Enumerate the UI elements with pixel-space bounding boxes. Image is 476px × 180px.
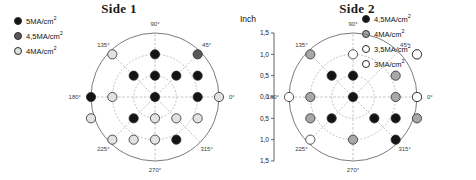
data-point-side-1	[108, 92, 117, 101]
legend-item-label: 4,5MA/cm2	[26, 31, 63, 40]
legend-swatch-icon	[14, 17, 22, 25]
data-point-side-2	[412, 114, 421, 123]
page-title-side-2: Side 2	[238, 1, 476, 17]
data-point-side-1	[86, 114, 95, 123]
data-point-side-2	[348, 50, 357, 59]
data-point-side-1	[172, 135, 181, 144]
data-point-side-1	[172, 71, 181, 80]
angle-tick-label: 90°	[150, 21, 160, 27]
data-point-side-2	[306, 92, 315, 101]
angle-tick-label: 0°	[229, 94, 235, 100]
data-point-side-1	[150, 50, 159, 59]
data-point-side-2	[306, 50, 315, 59]
data-point-side-1	[193, 50, 202, 59]
y-axis-tick-label: 0,5	[260, 72, 269, 79]
data-point-side-1	[108, 50, 117, 59]
legend-swatch-icon	[362, 15, 370, 23]
legend-item-label: 4,5MA/cm2	[374, 14, 411, 23]
data-point-side-1	[150, 71, 159, 80]
angle-tick-label: 270°	[347, 167, 360, 173]
legend-item: 4MA/cm2	[14, 44, 63, 57]
figure-container: Side 1 5MA/cm2 4,5MA/cm2 4MA/cm2 0°45°90…	[0, 0, 476, 180]
data-point-side-2	[412, 92, 421, 101]
legend-swatch-icon	[14, 47, 22, 55]
legend-item: 4,5MA/cm2	[362, 12, 411, 25]
angle-tick-label: 225°	[97, 146, 110, 152]
angle-tick-label: 315°	[200, 146, 213, 152]
data-point-side-1	[150, 114, 159, 123]
data-point-side-1	[172, 114, 181, 123]
data-point-side-2	[327, 71, 336, 80]
data-point-side-2	[391, 114, 400, 123]
polar-plot-side-1: 0°45°90°135°180°225°270°315°	[84, 26, 226, 168]
angle-tick-label: 270°	[149, 167, 162, 173]
data-point-side-1	[193, 114, 202, 123]
legend-item-label: 4MA/cm2	[26, 46, 57, 55]
data-point-side-1	[150, 135, 159, 144]
data-point-side-1	[193, 92, 202, 101]
angle-tick-label: 45°	[202, 42, 212, 48]
angle-tick-label: 225°	[295, 146, 308, 152]
data-point-side-2	[348, 135, 357, 144]
angle-tick-label: 315°	[398, 146, 411, 152]
legend-item: 5MA/cm2	[14, 14, 63, 27]
data-point-side-2	[348, 71, 357, 80]
data-point-side-2	[391, 71, 400, 80]
data-point-side-2	[370, 114, 379, 123]
data-point-side-2	[391, 92, 400, 101]
angle-tick-label: 180°	[267, 94, 280, 100]
angle-tick-label: 180°	[69, 94, 82, 100]
legend-swatch-icon	[14, 32, 22, 40]
data-point-side-2	[306, 114, 315, 123]
data-point-side-2	[284, 92, 293, 101]
angle-tick-label: 0°	[427, 94, 433, 100]
legend-item: 4,5MA/cm2	[14, 29, 63, 42]
angle-tick-label: 135°	[97, 42, 110, 48]
data-point-side-1	[86, 92, 95, 101]
data-point-side-1	[108, 135, 117, 144]
legend-side-1: 5MA/cm2 4,5MA/cm2 4MA/cm2	[14, 14, 63, 59]
y-axis-tick-label: 1,0	[260, 136, 269, 143]
data-point-side-2	[348, 92, 357, 101]
y-axis-tick-label: 1,0	[260, 51, 269, 58]
data-point-side-1	[193, 71, 202, 80]
angle-tick-label: 45°	[400, 42, 410, 48]
angle-tick-label: 135°	[295, 42, 308, 48]
angle-tick-label: 90°	[348, 21, 358, 27]
y-axis-tick-label: 1,5	[260, 157, 269, 164]
data-point-side-1	[129, 114, 138, 123]
data-point-side-2	[327, 114, 336, 123]
panel-side-1: Side 1 5MA/cm2 4,5MA/cm2 4MA/cm2 0°45°90…	[0, 0, 238, 180]
polar-plot-side-2: 0°45°90°135°180°225°270°315°	[282, 26, 424, 168]
data-point-side-2	[412, 50, 421, 59]
data-point-side-1	[150, 92, 159, 101]
axis-unit-label: Inch	[240, 14, 256, 24]
data-point-side-2	[306, 135, 315, 144]
data-point-side-1	[129, 135, 138, 144]
legend-item-label: 5MA/cm2	[26, 16, 57, 25]
data-point-side-2	[391, 135, 400, 144]
data-point-side-1	[129, 71, 138, 80]
y-axis-tick-label: 1,5	[260, 29, 269, 36]
y-axis-tick-label: 0,5	[260, 115, 269, 122]
data-point-side-1	[214, 92, 223, 101]
